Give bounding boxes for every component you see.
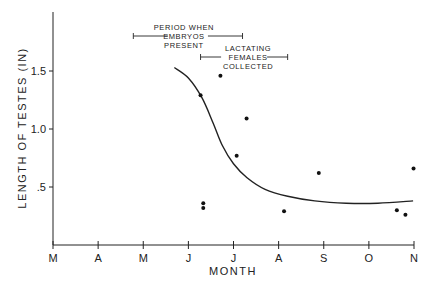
- annotation-text: LACTATING: [225, 44, 271, 53]
- y-tick-label: .5: [37, 181, 46, 193]
- data-point: [218, 74, 222, 78]
- data-points: [199, 74, 416, 217]
- x-tick-label: O: [365, 252, 374, 264]
- annotation-bracket: LACTATINGFEMALESCOLLECTED: [201, 44, 288, 71]
- data-point: [201, 206, 205, 210]
- x-ticks: MAMJJASON: [48, 241, 418, 264]
- x-tick-label: J: [231, 252, 237, 264]
- data-point: [395, 208, 399, 212]
- x-tick-label: J: [186, 252, 192, 264]
- annotation-text: PRESENT: [164, 41, 204, 50]
- y-axis-title: LENGTH OF TESTES (IN): [16, 47, 28, 208]
- annotation-text: FEMALES: [228, 53, 267, 62]
- data-point: [199, 93, 203, 97]
- y-tick-label: 1.0: [31, 123, 46, 135]
- annotation-text: PERIOD WHEN: [154, 23, 214, 32]
- data-point: [235, 154, 239, 158]
- data-point: [201, 201, 205, 205]
- data-point: [245, 117, 249, 121]
- x-tick-label: S: [320, 252, 327, 264]
- annotation-text: COLLECTED: [223, 62, 273, 71]
- y-tick-label: 1.5: [31, 65, 46, 77]
- data-point: [282, 209, 286, 213]
- testes-length-chart: MAMJJASON .51.01.5 MONTH LENGTH OF TESTE…: [0, 0, 433, 294]
- x-tick-label: N: [410, 252, 418, 264]
- y-ticks: .51.01.5: [31, 65, 53, 193]
- data-point: [317, 171, 321, 175]
- data-point: [412, 166, 416, 170]
- x-tick-label: A: [94, 252, 102, 264]
- annotation-text: EMBRYOS: [163, 32, 205, 41]
- x-tick-label: M: [48, 252, 57, 264]
- annotations: PERIOD WHENEMBRYOSPRESENTLACTATINGFEMALE…: [133, 23, 287, 71]
- x-axis-title: MONTH: [209, 265, 257, 277]
- x-tick-label: A: [275, 252, 283, 264]
- x-tick-label: M: [139, 252, 148, 264]
- fit-curve: [174, 68, 413, 204]
- data-point: [403, 213, 407, 217]
